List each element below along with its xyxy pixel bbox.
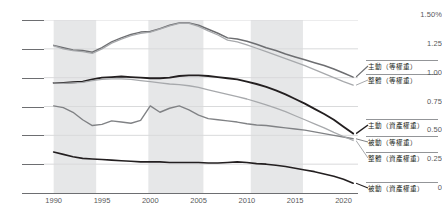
legend-label: 整體（等權重） (368, 77, 417, 85)
y-axis-tick-label: 0.25 (400, 155, 442, 163)
x-axis-line (44, 193, 358, 194)
legend-rule (366, 152, 438, 153)
x-axis-tick-label: 2020 (324, 196, 364, 205)
y-axis-tick-rule (22, 193, 44, 194)
x-axis-tick-label: 2000 (130, 196, 170, 205)
y-axis-tick-label: 0.50 (400, 126, 442, 134)
y-axis-tick-rule (22, 164, 44, 165)
y-axis-tick-rule (22, 135, 44, 136)
legend-rule (366, 119, 438, 120)
x-axis-tick-label: 1995 (82, 196, 122, 205)
x-axis-tick-label: 1990 (34, 196, 74, 205)
y-axis-tick-label: 1.25 (400, 40, 442, 48)
y-axis-tick-rule (22, 78, 44, 79)
y-axis-tick-rule (22, 107, 44, 108)
y-axis-tick-rule (22, 49, 44, 50)
legend-rule (366, 136, 438, 137)
x-axis-tick-label: 2010 (227, 196, 267, 205)
legend-rule (366, 182, 438, 183)
legend-label: 被動（等權重） (368, 139, 417, 147)
y-axis-tick-rule (22, 20, 44, 21)
chart-figure: 主動（等權重）整體（等權重）主動（資產權重）被動（等權重）整體（資產權重）被動（… (0, 0, 442, 224)
legend-rule (366, 60, 438, 61)
x-axis-tick-label: 2005 (179, 196, 219, 205)
plot-area (44, 20, 358, 193)
y-axis-tick-label: 0.75 (400, 98, 442, 106)
y-axis-tick-label: 0 (400, 184, 442, 192)
y-axis-tick-label: 1.50% (400, 11, 442, 19)
y-axis-tick-label: 1.00 (400, 69, 442, 77)
x-axis-tick-label: 2015 (275, 196, 315, 205)
plot-svg (44, 20, 358, 193)
